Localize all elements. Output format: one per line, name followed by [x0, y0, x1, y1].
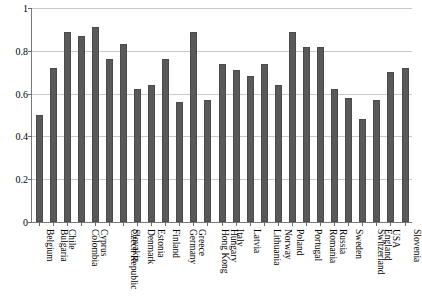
x-tick-label: Slovenia [411, 229, 421, 262]
bar-slot [74, 8, 88, 222]
x-label-slot: Switzerland [355, 226, 369, 308]
x-label-slot: Estonia [144, 226, 158, 308]
x-label-slot: England [369, 226, 383, 308]
bar [92, 27, 99, 222]
bar-slot [328, 8, 342, 222]
bar [289, 32, 296, 222]
bar-slot [215, 8, 229, 222]
x-label-slot: Poland [284, 226, 298, 308]
y-axis-labels: 00.20.40.60.81 [0, 0, 28, 308]
x-label-slot: Russia [327, 226, 341, 308]
bar [233, 70, 240, 222]
bar [148, 85, 155, 222]
bar-slot [257, 8, 271, 222]
x-label-slot: Latvia [242, 226, 256, 308]
x-label-slot: Romania [313, 226, 327, 308]
y-tick-mark [28, 222, 32, 223]
bar-slot [285, 8, 299, 222]
bar [204, 100, 211, 222]
x-label-slot: Denmark [130, 226, 144, 308]
bar-slot [384, 8, 398, 222]
bar [387, 72, 394, 222]
bar-slot [370, 8, 384, 222]
bar [303, 47, 310, 222]
bar [36, 115, 43, 222]
x-label-slot: Finland [158, 226, 172, 308]
bar [317, 47, 324, 222]
bar-slot [187, 8, 201, 222]
bar-slot [159, 8, 173, 222]
x-label-slot: Slovakia [115, 226, 129, 308]
x-label-slot: Belgium [31, 226, 45, 308]
bar-slot [299, 8, 313, 222]
x-label-slot: Italy [228, 226, 242, 308]
bar [219, 64, 226, 222]
bar [373, 100, 380, 222]
bar [78, 36, 85, 222]
bar [106, 59, 113, 222]
x-label-slot: Slovenia [397, 226, 411, 308]
bar-slot [60, 8, 74, 222]
x-axis-labels: BelgiumBulgariaChileColombiaCyprusCzech … [31, 226, 411, 308]
x-label-slot: Greece [186, 226, 200, 308]
bar [162, 59, 169, 222]
bar-slot [342, 8, 356, 222]
x-label-slot: Bulgaria [45, 226, 59, 308]
x-label-slot: Chile [59, 226, 73, 308]
bar-slot [102, 8, 116, 222]
bar [275, 85, 282, 222]
x-label-slot: Cyprus [87, 226, 101, 308]
bar-slot [201, 8, 215, 222]
bar-slot [356, 8, 370, 222]
bar [345, 98, 352, 222]
bar [331, 89, 338, 222]
bar [402, 68, 409, 222]
plot-area [31, 8, 412, 223]
x-label-slot: Czech Republic [101, 226, 115, 308]
bar [176, 102, 183, 222]
bar-slot [314, 8, 328, 222]
bar-slot [229, 8, 243, 222]
bar-slot [145, 8, 159, 222]
bar [50, 68, 57, 222]
x-label-slot: Portugal [298, 226, 312, 308]
bar-slot [32, 8, 46, 222]
bar-slot [271, 8, 285, 222]
bar-slot [131, 8, 145, 222]
bar-slot [173, 8, 187, 222]
bar-slot [88, 8, 102, 222]
bar [190, 32, 197, 222]
x-label-slot: Hong Kong [200, 226, 214, 308]
x-label-slot: Colombia [73, 226, 87, 308]
x-label-slot: Lithuania [256, 226, 270, 308]
bar [120, 44, 127, 222]
y-tick-label: 0.8 [16, 45, 29, 56]
x-label-slot: Hungary [214, 226, 228, 308]
y-tick-label: 0.6 [16, 88, 29, 99]
y-tick-label: 0.4 [16, 131, 29, 142]
bar-slot [116, 8, 130, 222]
bar [247, 76, 254, 222]
bar [359, 119, 366, 222]
bar-slot [243, 8, 257, 222]
bar [64, 32, 71, 222]
bar-slot [398, 8, 412, 222]
x-label-slot: Germany [172, 226, 186, 308]
bar [261, 64, 268, 222]
x-label-slot: Sweden [341, 226, 355, 308]
x-label-slot: Norway [270, 226, 284, 308]
bar-slot [46, 8, 60, 222]
y-tick-label: 0.2 [16, 174, 29, 185]
bar [134, 89, 141, 222]
x-label-slot: USA [383, 226, 397, 308]
bar-series [32, 8, 412, 222]
